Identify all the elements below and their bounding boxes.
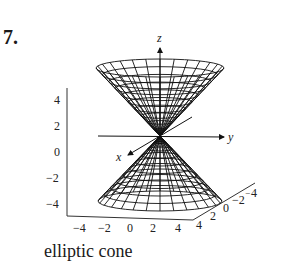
depth-tick-labels: 4 2 0 −2 4 −: [196, 186, 257, 232]
svg-text:4: 4: [54, 93, 60, 107]
figure-caption: elliptic cone: [44, 241, 132, 262]
svg-text:0: 0: [223, 201, 229, 215]
lower-nappe: [98, 136, 222, 211]
x-axis-label: x: [115, 150, 122, 164]
y-axis: [98, 136, 224, 137]
svg-text:4: 4: [196, 218, 202, 232]
bottom-tick-labels: −4−2024: [73, 221, 181, 235]
svg-text:−4: −4: [46, 197, 59, 211]
svg-text:4: 4: [175, 221, 181, 235]
svg-text:4: 4: [251, 186, 257, 200]
svg-text:−4: −4: [73, 221, 86, 235]
svg-text:−2: −2: [232, 193, 245, 207]
svg-text:−: −: [245, 188, 250, 198]
svg-text:0: 0: [127, 221, 133, 235]
cone-plot: z y x 420−2−4 −4−2024 4 2 0 −2 4 −: [0, 0, 287, 270]
z-tick-labels: 420−2−4: [46, 93, 60, 211]
svg-text:0: 0: [54, 145, 60, 159]
svg-text:−2: −2: [98, 221, 111, 235]
y-axis-label: y: [227, 130, 234, 144]
svg-text:2: 2: [210, 209, 216, 223]
svg-text:2: 2: [54, 119, 60, 133]
svg-text:−2: −2: [46, 171, 59, 185]
z-axis-label: z: [156, 31, 162, 45]
svg-text:2: 2: [150, 221, 156, 235]
